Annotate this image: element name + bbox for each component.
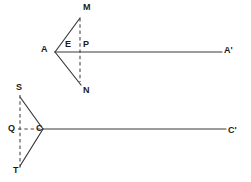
point-label-c: C (36, 124, 43, 133)
point-label-a-prime: A' (224, 46, 233, 55)
point-label-c-prime: C' (228, 126, 237, 135)
lower-figure-group (18, 95, 226, 168)
point-label-m: M (83, 3, 91, 12)
point-label-e: E (65, 40, 71, 49)
geometry-canvas (0, 0, 251, 182)
point-label-t: T (13, 166, 19, 175)
point-label-q: Q (8, 124, 15, 133)
upper-arm-bottom-segment (55, 52, 81, 85)
upper-figure-group (55, 18, 222, 85)
point-label-p: P (83, 40, 89, 49)
point-label-a: A (41, 45, 48, 54)
geometry-diagram: M A E P A' N S Q C C' T (0, 0, 251, 182)
point-label-n: N (83, 86, 90, 95)
point-label-s: S (16, 83, 22, 92)
lower-arm-bottom-segment (20, 129, 43, 166)
